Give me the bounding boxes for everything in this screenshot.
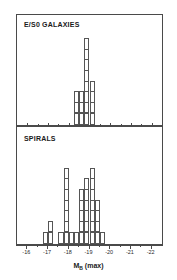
x-axis-tick-label: -22 xyxy=(147,249,155,255)
x-axis-tick-label: -21 xyxy=(126,249,134,255)
x-axis-minor-tick xyxy=(140,245,141,247)
panel-spirals: SPIRALS xyxy=(16,126,163,245)
x-axis-minor-tick xyxy=(57,245,58,247)
x-axis-title: MB (max) xyxy=(0,262,177,269)
histogram-cell xyxy=(48,232,53,244)
x-axis-minor-tick xyxy=(78,245,79,247)
x-axis-tick-label: -19 xyxy=(85,249,93,255)
histogram-bin xyxy=(90,82,95,125)
x-axis-tick-label: -20 xyxy=(105,249,113,255)
x-axis-minor-tick xyxy=(99,245,100,247)
axis-title-subscript: B xyxy=(79,265,83,271)
histogram-figure: E/S0 GALAXIES SPIRALS -16-17-18-19-20-21… xyxy=(0,0,177,280)
x-axis-minor-tick xyxy=(37,245,38,247)
histogram-cell xyxy=(95,221,100,233)
histogram-bars-spirals xyxy=(17,127,162,244)
histogram-bin xyxy=(100,232,105,244)
plot-area-spirals xyxy=(17,127,162,244)
histogram-bin xyxy=(48,222,53,244)
histogram-cell xyxy=(64,221,69,233)
x-axis-tick-label: -17 xyxy=(43,249,51,255)
axis-title-suffix: (max) xyxy=(83,262,104,269)
x-axis-tick-label: -16 xyxy=(22,249,30,255)
plot-area-eso xyxy=(17,15,162,125)
histogram-cell xyxy=(90,102,95,114)
histogram-cell xyxy=(100,232,105,244)
panel-eso-galaxies: E/S0 GALAXIES xyxy=(16,14,163,126)
histogram-cell xyxy=(48,221,53,233)
x-axis-tick-label: -18 xyxy=(64,249,72,255)
histogram-bars-eso xyxy=(17,15,162,125)
x-axis-minor-tick xyxy=(120,245,121,247)
